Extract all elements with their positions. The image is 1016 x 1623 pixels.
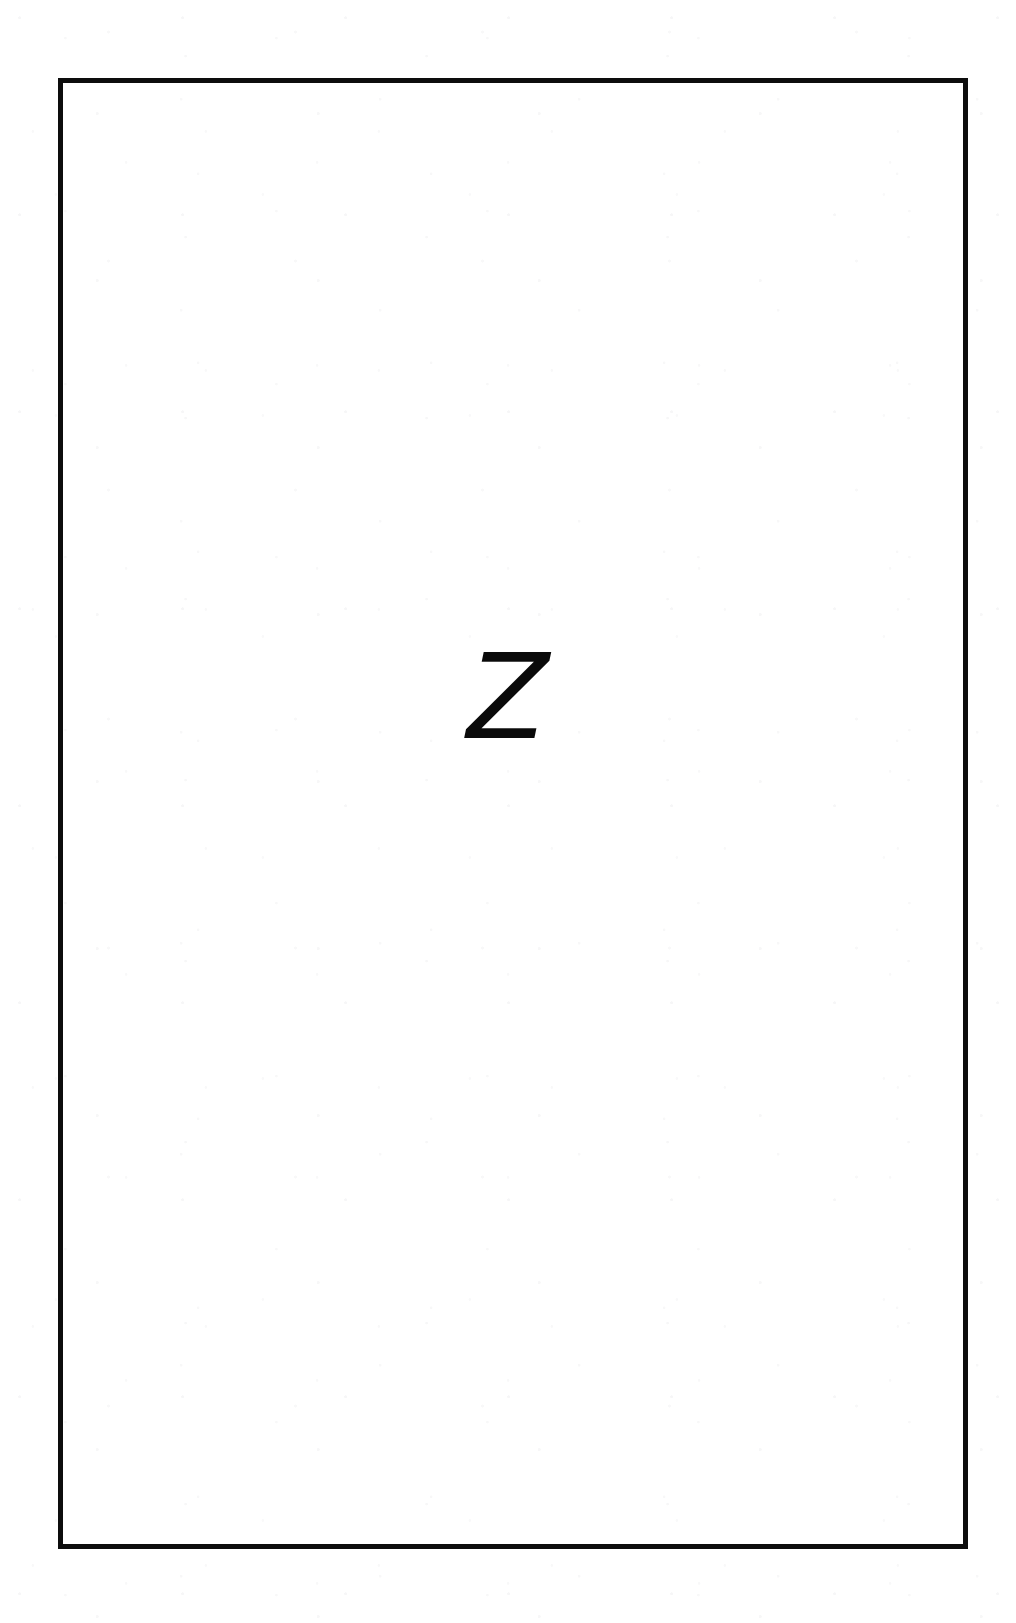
scanned-page: Z — [0, 0, 1016, 1623]
content-border — [58, 78, 968, 1549]
